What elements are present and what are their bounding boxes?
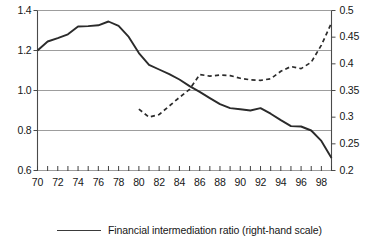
legend-item-label: Financial intermediation ratio (right-ha… — [108, 224, 322, 236]
solid-series-left-scale — [38, 22, 332, 158]
legend-line-swatch — [57, 230, 101, 231]
right-axis-tick-label: 0.4 — [340, 57, 354, 69]
left-axis-tick-label: 0.8 — [18, 124, 32, 136]
left-axis-ticks — [34, 11, 38, 171]
right-axis-tick-label: 0.35 — [340, 84, 360, 96]
x-axis-tick-label: 98 — [309, 176, 333, 188]
right-axis-tick-label: 0.3 — [340, 110, 354, 122]
right-axis-tick-label: 0.2 — [340, 164, 354, 176]
chart-container: 0.60.81.01.21.4 0.20.250.30.350.40.450.5… — [0, 0, 379, 244]
right-axis-tick-label: 0.5 — [340, 4, 354, 16]
chart-legend: Financial intermediation ratio (right-ha… — [57, 224, 322, 236]
dashed-series-right-scale — [139, 23, 332, 117]
left-axis-tick-label: 1.0 — [18, 84, 32, 96]
right-axis-tick-label: 0.25 — [340, 137, 360, 149]
right-axis-ticks — [332, 11, 336, 171]
right-axis-tick-label: 0.45 — [340, 30, 360, 42]
gridlines — [38, 11, 332, 131]
left-axis-tick-label: 1.4 — [18, 4, 32, 16]
left-axis-tick-label: 1.2 — [18, 44, 32, 56]
chart-plot-area — [0, 0, 379, 244]
left-axis-tick-label: 0.6 — [18, 164, 32, 176]
data-series — [38, 22, 332, 158]
